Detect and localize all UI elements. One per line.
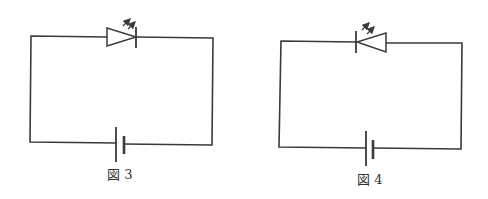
wire-loop-fig4 bbox=[279, 41, 462, 149]
figure-caption-fig3: 図 3 bbox=[107, 164, 132, 183]
circuit-fig4 bbox=[279, 23, 462, 166]
wire-loop-fig3 bbox=[30, 36, 213, 145]
led-icon-fig4 bbox=[356, 23, 386, 53]
battery-icon-fig4 bbox=[366, 131, 373, 166]
battery-icon-fig3 bbox=[116, 127, 124, 162]
circuit-fig3 bbox=[30, 19, 213, 162]
led-icon-fig3 bbox=[107, 19, 136, 48]
figure-caption-fig4: 図 4 bbox=[357, 169, 382, 188]
